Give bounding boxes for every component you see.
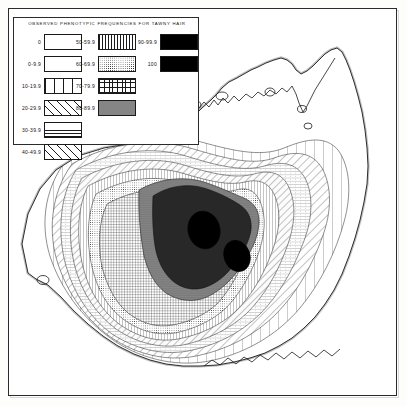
legend-entry-40-49: 40-49.9: [16, 141, 82, 163]
legend-label-90-99: 90-99.9: [131, 39, 157, 45]
legend-entry-70-79: 70-79.9: [70, 75, 136, 97]
legend-swatch-80-89: [98, 100, 136, 116]
legend-entry-60-69: 60-69.9: [70, 53, 136, 75]
legend-label-40-49: 40-49.9: [16, 149, 41, 155]
legend-entry-50-59: 50-59.9: [70, 31, 136, 53]
legend-label-0: 0: [16, 39, 41, 45]
legend-entry-80-89: 80-89.9: [70, 97, 136, 119]
legend-label-10-19: 10-19.9: [16, 83, 41, 89]
legend-label-50-59: 50-59.9: [70, 39, 95, 45]
legend-label-60-69: 60-69.9: [70, 61, 95, 67]
legend-entry-90-99: 90-99.9: [131, 31, 198, 53]
legend-label-100: 100: [131, 61, 157, 67]
legend-swatch-40-49: [44, 144, 82, 160]
legend-entry-30-39: 30-39.9: [16, 119, 82, 141]
legend-label-0-9: 0-9.9: [16, 61, 41, 67]
legend-title: OBSERVED PHENOTYPIC FREQUENCIES FOR TAWN…: [14, 21, 200, 26]
legend-label-20-29: 20-29.9: [16, 105, 41, 111]
legend-swatch-100: [160, 56, 198, 72]
figure-page: OBSERVED PHENOTYPIC FREQUENCIES FOR TAWN…: [0, 0, 407, 406]
legend-label-70-79: 70-79.9: [70, 83, 95, 89]
map-legend: OBSERVED PHENOTYPIC FREQUENCIES FOR TAWN…: [13, 17, 199, 145]
legend-column-2: 50-59.9 60-69.9 70-79.9 80-89.9: [70, 31, 136, 119]
legend-swatch-30-39: [44, 122, 82, 138]
legend-label-30-39: 30-39.9: [16, 127, 41, 133]
legend-entry-100: 100: [131, 53, 198, 75]
legend-column-3: 90-99.9 100: [131, 31, 198, 75]
legend-label-80-89: 80-89.9: [70, 105, 95, 111]
legend-swatch-90-99: [160, 34, 198, 50]
legend-swatch-70-79: [98, 78, 136, 94]
